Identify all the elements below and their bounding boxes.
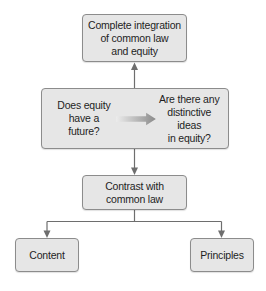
node-label-left: Does equity have a future? [52,99,116,138]
connector-to-content [44,222,51,239]
flowchart-canvas: Complete integration of common law and e… [0,0,266,291]
gradient-arrow-icon [116,111,157,127]
node-content: Content [15,238,79,272]
node-label: Content [29,249,64,262]
connector-middle-to-top [131,63,138,89]
node-label: Complete integration of common law and e… [88,19,181,58]
connector-middle-to-contrast [131,149,138,175]
node-equity-future-question: Does equity have a future? Are there any… [41,88,229,149]
connector-contrast-branch [47,210,222,222]
node-label: Contrast with common law [105,180,164,206]
node-contrast-with-common-law: Contrast with common law [82,175,187,210]
node-complete-integration: Complete integration of common law and e… [82,14,187,62]
node-principles: Principles [190,238,254,272]
node-label: Principles [200,249,244,262]
node-label-right: Are there any distinctive ideas in equit… [156,93,222,145]
connector-to-principles [218,222,225,239]
